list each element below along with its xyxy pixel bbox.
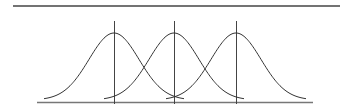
diagram xyxy=(0,0,348,112)
